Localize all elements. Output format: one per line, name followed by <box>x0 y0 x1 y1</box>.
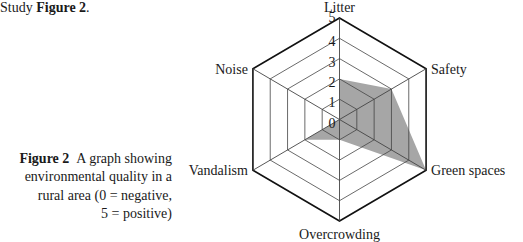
category-label-noise: Noise <box>215 62 248 77</box>
category-label-safety: Safety <box>431 62 467 77</box>
data-polygon-layer <box>305 79 426 170</box>
scale-tick-label: 3 <box>329 55 336 70</box>
scale-tick-label: 0 <box>329 116 336 131</box>
category-label-overcrowding: Overcrowding <box>299 227 380 242</box>
category-label-litter: Litter <box>324 0 355 15</box>
scale-tick-label: 4 <box>329 34 336 49</box>
radar-chart: 012345LitterSafetyGreen spacesOvercrowdi… <box>0 0 523 242</box>
scale-tick-label: 1 <box>329 95 336 110</box>
axis-spoke <box>253 120 340 171</box>
axis-spoke <box>253 69 340 120</box>
data-polygon <box>305 79 426 170</box>
category-label-green-spaces: Green spaces <box>431 163 505 178</box>
category-label-vandalism: Vandalism <box>189 163 248 178</box>
scale-tick-label: 2 <box>329 75 336 90</box>
